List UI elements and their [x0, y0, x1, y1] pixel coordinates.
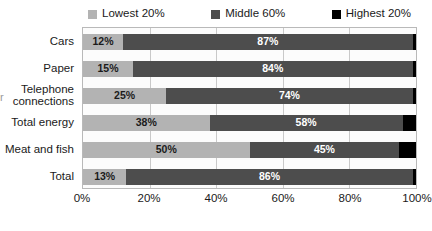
- x-tick-label: 40%: [204, 193, 227, 205]
- bar-row[interactable]: 50%45%: [83, 142, 416, 158]
- legend-item-label: Highest 20%: [346, 8, 411, 20]
- x-tick-label: 80%: [338, 193, 361, 205]
- category-label: Meat and fish: [5, 143, 74, 155]
- legend-swatch-icon: [88, 10, 97, 19]
- bar-segment-value-label: 84%: [262, 63, 283, 74]
- bar-segment-value-label: 12%: [92, 36, 113, 47]
- plot-area: 12%87%15%84%25%74%38%58%50%45%13%86%: [82, 27, 417, 189]
- x-tick-label: 60%: [271, 193, 294, 205]
- bar-segment[interactable]: 13%: [83, 169, 126, 185]
- bar-row[interactable]: 15%84%: [83, 61, 416, 77]
- bar-rows: 12%87%15%84%25%74%38%58%50%45%13%86%: [83, 28, 416, 188]
- x-tick-label: 0%: [74, 193, 91, 205]
- bar-segment[interactable]: [399, 142, 416, 158]
- bar-segment[interactable]: 38%: [83, 115, 210, 131]
- bar-segment[interactable]: [403, 115, 416, 131]
- x-tick-label: 20%: [137, 193, 160, 205]
- bar-segment[interactable]: 12%: [83, 34, 123, 50]
- category-axis-labels: CarsPaperTelephone connectionsTotal ener…: [0, 27, 78, 189]
- bar-segment[interactable]: 84%: [133, 61, 413, 77]
- bar-segment-value-label: 15%: [97, 63, 118, 74]
- bar-segment-value-label: 87%: [257, 36, 278, 47]
- legend-item[interactable]: Lowest 20%: [88, 8, 165, 20]
- bar-segment-value-label: 74%: [279, 90, 300, 101]
- bar-segment-value-label: 25%: [114, 90, 135, 101]
- x-axis-tick-labels: 0%20%40%60%80%100%: [82, 191, 417, 211]
- bar-segment[interactable]: 45%: [250, 142, 400, 158]
- legend-swatch-icon: [332, 10, 341, 19]
- bar-segment-value-label: 86%: [259, 171, 280, 182]
- category-label: Telephone connections: [13, 83, 74, 107]
- category-label: Paper: [43, 62, 74, 74]
- category-label: Total energy: [11, 116, 74, 128]
- bar-row[interactable]: 38%58%: [83, 115, 416, 131]
- bar-segment-value-label: 38%: [136, 117, 157, 128]
- bar-segment[interactable]: [413, 34, 416, 50]
- bar-segment[interactable]: [413, 61, 416, 77]
- legend-item[interactable]: Highest 20%: [332, 8, 411, 20]
- bar-segment-value-label: 50%: [156, 144, 177, 155]
- stacked-bar-chart: r Lowest 20%Middle 60%Highest 20% CarsPa…: [0, 0, 432, 231]
- bar-segment[interactable]: 86%: [126, 169, 412, 185]
- bar-segment[interactable]: 50%: [83, 142, 250, 158]
- category-label: Cars: [50, 35, 74, 47]
- x-tick-label: 100%: [402, 193, 431, 205]
- bar-segment[interactable]: 15%: [83, 61, 133, 77]
- bar-segment-value-label: 58%: [296, 117, 317, 128]
- bar-segment-value-label: 13%: [94, 171, 115, 182]
- bar-segment-value-label: 45%: [314, 144, 335, 155]
- legend-item-label: Lowest 20%: [102, 8, 165, 20]
- bar-row[interactable]: 25%74%: [83, 88, 416, 104]
- category-label: Total: [50, 170, 74, 182]
- bar-row[interactable]: 12%87%: [83, 34, 416, 50]
- bar-segment[interactable]: 74%: [166, 88, 412, 104]
- chart-legend: Lowest 20%Middle 60%Highest 20%: [82, 6, 417, 22]
- bar-segment[interactable]: [413, 88, 416, 104]
- legend-swatch-icon: [211, 10, 220, 19]
- bar-segment[interactable]: [413, 169, 416, 185]
- bar-segment[interactable]: 25%: [83, 88, 166, 104]
- legend-item-label: Middle 60%: [225, 8, 285, 20]
- bar-segment[interactable]: 58%: [210, 115, 403, 131]
- legend-item[interactable]: Middle 60%: [211, 8, 285, 20]
- bar-segment[interactable]: 87%: [123, 34, 413, 50]
- bar-row[interactable]: 13%86%: [83, 169, 416, 185]
